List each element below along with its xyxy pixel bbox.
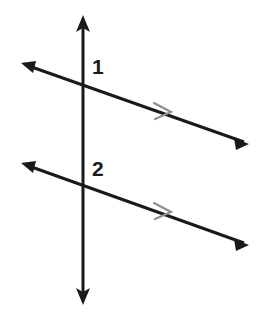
angle-label-2: 2 xyxy=(92,158,104,179)
upper-parallel-line-group xyxy=(21,61,249,150)
upper-parallel-line-left-arrowhead xyxy=(21,61,36,73)
geometry-diagram-canvas: 1 2 xyxy=(0,0,263,315)
lower-parallel-line xyxy=(26,165,244,243)
lower-parallel-line-left-arrowhead xyxy=(21,161,36,173)
lower-parallel-line-group xyxy=(21,161,249,251)
geometry-figure xyxy=(0,0,263,315)
vertical-transversal-group xyxy=(76,15,90,305)
upper-parallel-line xyxy=(26,65,244,142)
angle-label-1: 1 xyxy=(92,56,104,77)
